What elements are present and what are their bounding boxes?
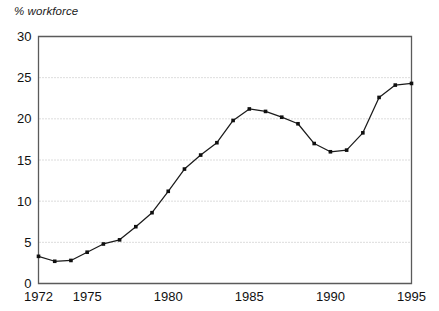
y-axis-tick-labels: 051015202530 (17, 29, 31, 291)
data-point-marker (296, 122, 300, 126)
data-point-marker (410, 82, 414, 86)
chart-figure: % workforce 051015202530 197219751980198… (0, 0, 439, 311)
data-series-markers (37, 82, 414, 263)
data-point-marker (199, 153, 203, 157)
y-axis-tick-label: 25 (17, 70, 31, 85)
data-series-line (39, 83, 412, 261)
data-point-marker (393, 83, 397, 87)
data-point-marker (102, 242, 106, 246)
data-point-marker (69, 259, 73, 263)
data-point-marker (53, 259, 57, 263)
data-point-marker (150, 211, 154, 215)
data-point-marker (312, 142, 316, 146)
data-point-marker (37, 255, 41, 259)
data-point-marker (377, 96, 381, 100)
data-point-marker (361, 131, 365, 135)
x-axis-tick-label: 1975 (73, 289, 102, 304)
data-point-marker (118, 238, 122, 242)
x-axis-tick-labels: 197219751980198519901995 (24, 289, 426, 304)
x-axis-tick-label: 1980 (154, 289, 183, 304)
data-point-marker (248, 107, 252, 111)
y-axis-tick-label: 15 (17, 153, 31, 168)
x-axis-tick-label: 1995 (397, 289, 426, 304)
y-axis-tick-label: 20 (17, 111, 31, 126)
y-axis-tick-label: 30 (17, 29, 31, 44)
data-point-marker (264, 110, 268, 114)
data-point-marker (134, 225, 138, 229)
data-point-marker (280, 115, 284, 119)
data-point-marker (85, 250, 89, 254)
data-point-marker (329, 150, 333, 154)
x-axis-tick-label: 1990 (316, 289, 345, 304)
gridlines-group (40, 78, 411, 243)
x-axis-tick-label: 1985 (235, 289, 264, 304)
x-axis-tick-label: 1972 (24, 289, 53, 304)
data-point-marker (183, 167, 187, 171)
data-point-marker (166, 189, 170, 193)
data-point-marker (345, 148, 349, 152)
y-axis-tick-label: 5 (24, 235, 31, 250)
data-point-marker (215, 141, 219, 145)
data-point-marker (231, 119, 235, 123)
y-axis-tick-label: 10 (17, 194, 31, 209)
line-chart-plot: 051015202530 197219751980198519901995 (0, 0, 439, 311)
